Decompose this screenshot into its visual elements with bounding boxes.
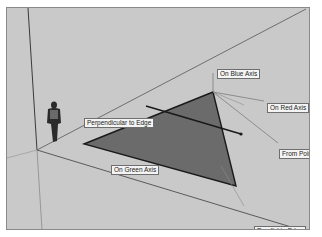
red-axis-dashed-line [7, 150, 37, 158]
person-figure [47, 102, 61, 143]
from-point-tooltip: From Point [279, 149, 310, 159]
perpendicular-to-edge-tooltip: Perpendicular to Edge [84, 118, 154, 128]
blue-axis-dashed-line [37, 150, 42, 229]
parallel-to-edge-tooltip: Parallel to Edge [254, 226, 306, 230]
inference-line [213, 92, 244, 105]
drawing-viewport[interactable]: On Blue Axis On Red Axis Perpendicular t… [6, 7, 310, 230]
triangle-face[interactable] [84, 92, 236, 186]
red-inference-line [213, 92, 264, 101]
on-green-axis-tooltip: On Green Axis [111, 165, 159, 175]
on-red-axis-tooltip: On Red Axis [267, 103, 309, 113]
endpoint-marker[interactable] [239, 132, 242, 135]
on-blue-axis-tooltip: On Blue Axis [217, 69, 260, 79]
blue-axis-line [28, 8, 37, 150]
scene-canvas[interactable] [7, 8, 309, 229]
